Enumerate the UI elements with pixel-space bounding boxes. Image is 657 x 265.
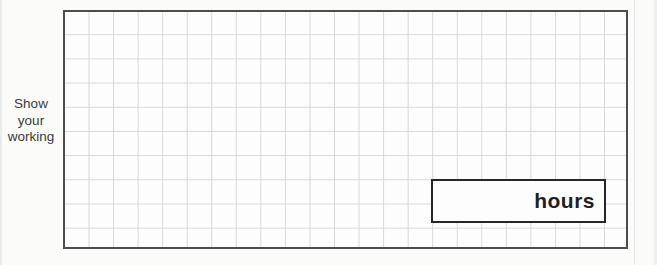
show-working-label: Show your working <box>0 96 62 146</box>
answer-unit-label: hours <box>534 189 595 213</box>
answer-box[interactable]: hours <box>431 179 606 223</box>
worksheet-page: Show your working hours <box>0 0 657 265</box>
page-edge-right-line <box>634 0 635 265</box>
